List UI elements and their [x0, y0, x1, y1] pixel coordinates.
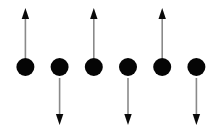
spin-chain-diagram — [0, 0, 222, 139]
node-6 — [187, 58, 205, 76]
node-2 — [51, 58, 69, 76]
diagram-canvas — [0, 0, 222, 139]
node-1 — [16, 58, 34, 76]
node-3 — [85, 58, 103, 76]
node-4 — [119, 58, 137, 76]
node-5 — [153, 58, 171, 76]
